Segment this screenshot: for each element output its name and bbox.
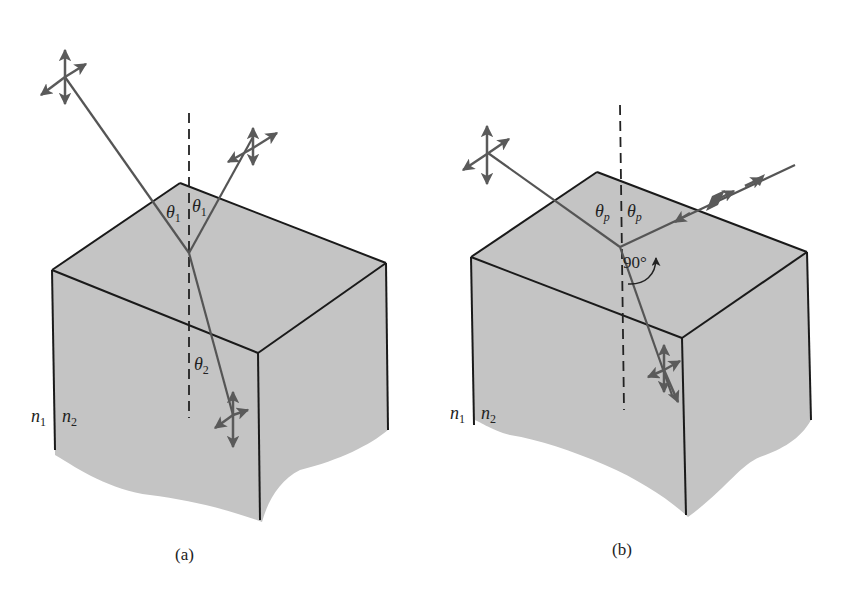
- caption-b: (b): [612, 540, 632, 559]
- n1-label-b: n1: [450, 403, 465, 426]
- right-angle-label: 90°: [623, 253, 647, 272]
- n1-label-a: n1: [31, 406, 46, 429]
- polarization-arrows-incident-b: [463, 126, 509, 184]
- panel-b: θp θp 90° n1 n2 (b): [450, 105, 811, 559]
- caption-a: (a): [175, 545, 194, 564]
- polarization-reflection-diagram: θ1 θ1 θ2 n1 n2 (a): [0, 0, 845, 591]
- block-a: [52, 183, 388, 522]
- panel-a: θ1 θ1 θ2 n1 n2 (a): [31, 50, 388, 564]
- polarization-arrows-reflected-a: [228, 128, 277, 165]
